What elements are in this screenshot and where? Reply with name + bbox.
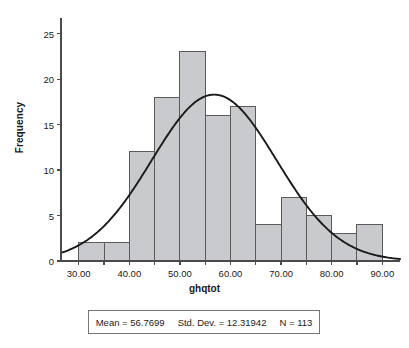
y-tick-label: 5 [20,210,54,221]
plot-svg [0,0,409,300]
bars-group [79,52,383,261]
stat-mean: Mean = 56.7699 [96,317,165,328]
histogram-bar [104,243,129,261]
histogram-chart: Frequency ghqtot 0510152025 30.0040.0050… [0,0,409,348]
x-tick-label: 50.00 [168,268,192,279]
histogram-bar [231,106,256,261]
x-tick-label: 80.00 [320,268,344,279]
statistics-box: Mean = 56.7699 Std. Dev. = 12.31942 N = … [88,310,320,334]
histogram-bar [129,152,154,261]
histogram-bar [79,243,104,261]
plot-area: Frequency ghqtot 0510152025 30.0040.0050… [0,0,409,300]
histogram-bar [180,52,205,261]
stat-std-dev: Std. Dev. = 12.31942 [178,317,267,328]
histogram-bar [205,115,230,261]
x-tick-label: 30.00 [67,268,91,279]
x-tick-label: 70.00 [269,268,293,279]
x-tick-label: 60.00 [219,268,243,279]
histogram-bar [281,197,306,261]
histogram-bar [306,216,331,261]
y-tick-label: 15 [20,119,54,130]
y-tick-label: 10 [20,165,54,176]
x-tick-label: 90.00 [370,268,394,279]
y-tick-label: 25 [20,28,54,39]
x-tick-label: 40.00 [117,268,141,279]
stat-n: N = 113 [279,317,312,328]
histogram-bar [256,225,281,261]
y-tick-label: 0 [20,256,54,267]
x-axis-title: ghqtot [0,283,409,294]
y-tick-label: 20 [20,74,54,85]
